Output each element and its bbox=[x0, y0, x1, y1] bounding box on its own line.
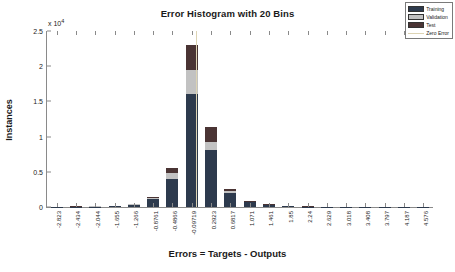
y-axis-exponent: x 104 bbox=[48, 18, 64, 27]
y-tick-label: 2 bbox=[39, 63, 43, 70]
legend-color-swatch bbox=[408, 14, 424, 20]
zero-error-line bbox=[196, 31, 197, 207]
x-tick-label: -0.09719 bbox=[191, 211, 197, 235]
bar-segment-test bbox=[205, 127, 217, 142]
x-tick-mark-top bbox=[250, 31, 251, 35]
x-tick-label: 1.461 bbox=[268, 211, 274, 226]
x-tick-mark bbox=[308, 203, 309, 207]
x-tick-mark-top bbox=[365, 31, 366, 35]
x-tick-label: 0.2923 bbox=[211, 211, 217, 229]
x-tick-label: -2.044 bbox=[95, 211, 101, 228]
y-tick-mark bbox=[47, 31, 51, 32]
x-tick-mark-top bbox=[288, 31, 289, 35]
x-tick-mark bbox=[211, 203, 212, 207]
x-tick-mark bbox=[269, 203, 270, 207]
y-tick-mark bbox=[47, 136, 51, 137]
x-tick-mark-top bbox=[153, 31, 154, 35]
x-tick-mark bbox=[134, 203, 135, 207]
x-tick-mark-top bbox=[115, 31, 116, 35]
y-tick-label: 1.5 bbox=[33, 98, 43, 105]
y-exponent-power: 4 bbox=[61, 18, 64, 24]
legend-item[interactable]: Zero Error bbox=[408, 29, 449, 36]
plot-area: 00.511.522.5-2.823-2.434-2.044-1.655-1.2… bbox=[46, 31, 433, 208]
x-tick-label: -1.266 bbox=[133, 211, 139, 228]
x-tick-label: 1.071 bbox=[249, 211, 255, 226]
legend-line-swatch bbox=[408, 30, 424, 36]
legend-label: Validation bbox=[426, 14, 448, 20]
y-exponent-base: x 10 bbox=[48, 20, 61, 27]
plot-inner: 00.511.522.5-2.823-2.434-2.044-1.655-1.2… bbox=[47, 31, 433, 207]
x-tick-mark bbox=[57, 203, 58, 207]
x-tick-mark bbox=[230, 203, 231, 207]
y-tick-label: 0.5 bbox=[33, 168, 43, 175]
x-tick-mark-top bbox=[172, 31, 173, 35]
x-tick-label: 0.6817 bbox=[230, 211, 236, 229]
legend-item[interactable]: Validation bbox=[408, 13, 449, 20]
x-tick-mark bbox=[404, 203, 405, 207]
bar-segment-validation bbox=[205, 142, 217, 151]
y-tick-label: 0 bbox=[39, 204, 43, 211]
bar-segment-training bbox=[205, 150, 217, 207]
legend-label: Test bbox=[426, 22, 435, 28]
x-axis-label: Errors = Targets - Outputs bbox=[0, 248, 455, 259]
x-tick-mark-top bbox=[76, 31, 77, 35]
x-tick-label: -2.823 bbox=[56, 211, 62, 228]
x-tick-mark bbox=[95, 203, 96, 207]
y-tick-mark bbox=[47, 66, 51, 67]
x-tick-mark-top bbox=[385, 31, 386, 35]
x-tick-label: 2.629 bbox=[326, 211, 332, 226]
x-tick-label: 4.576 bbox=[423, 211, 429, 226]
x-tick-mark-top bbox=[211, 31, 212, 35]
x-tick-label: 3.408 bbox=[365, 211, 371, 226]
x-tick-mark-top bbox=[269, 31, 270, 35]
x-tick-mark bbox=[288, 203, 289, 207]
x-tick-mark bbox=[365, 203, 366, 207]
x-tick-mark bbox=[115, 203, 116, 207]
page-title: Error Histogram with 20 Bins bbox=[0, 8, 455, 19]
x-tick-mark-top bbox=[346, 31, 347, 35]
x-tick-mark bbox=[327, 203, 328, 207]
y-tick-label: 2.5 bbox=[33, 28, 43, 35]
x-tick-label: -0.4866 bbox=[172, 211, 178, 231]
x-tick-label: 1.85 bbox=[288, 211, 294, 223]
x-tick-mark bbox=[250, 203, 251, 207]
legend-label: Zero Error bbox=[426, 30, 449, 36]
x-tick-mark bbox=[346, 203, 347, 207]
x-tick-mark bbox=[385, 203, 386, 207]
x-tick-mark bbox=[76, 203, 77, 207]
histogram-bar bbox=[166, 168, 178, 207]
y-axis-label: Instances bbox=[2, 31, 16, 208]
x-tick-label: -0.8761 bbox=[153, 211, 159, 231]
x-tick-label: 3.018 bbox=[346, 211, 352, 226]
x-tick-mark-top bbox=[230, 31, 231, 35]
error-histogram-figure: Error Histogram with 20 Bins x 104 Insta… bbox=[0, 0, 455, 272]
x-tick-mark-top bbox=[134, 31, 135, 35]
x-tick-mark-top bbox=[192, 31, 193, 35]
y-tick-mark bbox=[47, 171, 51, 172]
x-tick-mark bbox=[153, 203, 154, 207]
x-tick-mark bbox=[192, 203, 193, 207]
x-tick-label: -1.655 bbox=[114, 211, 120, 228]
x-tick-mark-top bbox=[57, 31, 58, 35]
x-tick-label: -2.434 bbox=[75, 211, 81, 228]
x-tick-label: 4.187 bbox=[404, 211, 410, 226]
legend-item[interactable]: Training bbox=[408, 5, 449, 12]
legend-item[interactable]: Test bbox=[408, 21, 449, 28]
x-tick-label: 3.797 bbox=[384, 211, 390, 226]
chart-legend: TrainingValidationTestZero Error bbox=[405, 2, 453, 39]
x-tick-mark bbox=[172, 203, 173, 207]
y-tick-label: 1 bbox=[39, 133, 43, 140]
histogram-bar bbox=[205, 127, 217, 207]
y-tick-mark bbox=[47, 101, 51, 102]
x-tick-mark-top bbox=[327, 31, 328, 35]
x-tick-mark-top bbox=[308, 31, 309, 35]
legend-label: Training bbox=[426, 6, 444, 12]
legend-color-swatch bbox=[408, 22, 424, 28]
legend-color-swatch bbox=[408, 6, 424, 12]
x-tick-label: 2.24 bbox=[307, 211, 313, 223]
x-tick-mark-top bbox=[95, 31, 96, 35]
x-tick-mark bbox=[423, 203, 424, 207]
